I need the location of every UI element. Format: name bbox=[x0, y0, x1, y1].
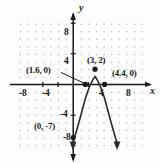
point-y-intercept bbox=[71, 135, 76, 140]
x-tick-4: 4 bbox=[99, 89, 104, 99]
y-tick--4: -4 bbox=[60, 110, 68, 120]
annotation-x-intercept-right: (4.4, 0) bbox=[112, 69, 137, 78]
x-axis-label: x bbox=[150, 86, 155, 96]
annotation-vertex: (3, 2) bbox=[87, 56, 105, 65]
x-tick--4: -4 bbox=[42, 89, 50, 99]
point-x-intercept-right bbox=[102, 82, 107, 87]
y-axis-arrow-bottom bbox=[70, 154, 76, 162]
graph-figure: y x -8 -4 4 8 8 4 -4 -8 (3, 2) (1.6, 0) … bbox=[0, 0, 160, 163]
y-tick-4: 4 bbox=[64, 57, 69, 67]
x-tick--8: -8 bbox=[19, 89, 27, 99]
parabola-plot bbox=[0, 0, 160, 163]
point-vertex bbox=[92, 67, 97, 72]
y-tick-8: 8 bbox=[64, 28, 69, 38]
annotation-x-intercept-left: (1.6, 0) bbox=[26, 66, 51, 75]
annotation-y-intercept: (0, -7) bbox=[34, 122, 55, 131]
y-tick--8: -8 bbox=[63, 133, 71, 143]
x-tick-8: 8 bbox=[126, 89, 131, 99]
y-axis-label: y bbox=[79, 3, 83, 13]
y-axis-arrow bbox=[70, 12, 76, 20]
